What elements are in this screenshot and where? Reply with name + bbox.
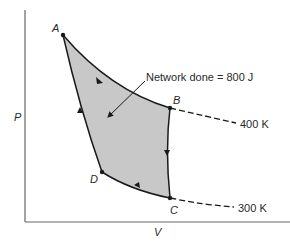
isotherm-400k	[170, 108, 236, 123]
x-axis-label: V	[154, 226, 163, 238]
isotherm-300k	[170, 198, 234, 207]
point-c-label: C	[170, 204, 178, 216]
pv-diagram: A B C D 400 K 300 K Network done = 800 J…	[0, 0, 290, 247]
network-done-label: Network done = 800 J	[146, 71, 253, 83]
isotherm-400k-label: 400 K	[240, 118, 269, 130]
point-b-label: B	[173, 94, 180, 106]
cycle-region	[63, 35, 170, 198]
point-b	[168, 106, 172, 110]
point-d-label: D	[90, 173, 98, 185]
isotherm-300k-label: 300 K	[238, 202, 267, 214]
point-d	[100, 170, 104, 174]
point-a	[61, 33, 65, 37]
point-a-label: A	[51, 22, 59, 34]
point-c	[168, 196, 172, 200]
y-axis-label: P	[14, 111, 22, 123]
